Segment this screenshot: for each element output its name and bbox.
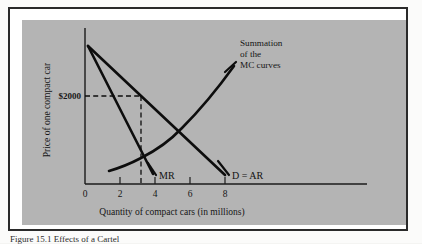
x-tick-label-2: 2 bbox=[118, 189, 123, 199]
mr-curve-label: MR bbox=[159, 170, 175, 181]
demand-curve bbox=[88, 46, 225, 175]
marginal-revenue-curve bbox=[88, 46, 153, 174]
y-tick-label-2000: $2000 bbox=[59, 91, 82, 101]
x-tick-label-6: 6 bbox=[188, 189, 193, 199]
x-tick-label-0: 0 bbox=[83, 189, 88, 199]
figure-caption: Figure 15.1 Effects of a Cartel bbox=[10, 234, 420, 244]
mc-callout-line-2: of the bbox=[240, 49, 261, 59]
y-axis-title: Price of one compact car bbox=[42, 62, 52, 157]
demand-curve-label: D = AR bbox=[232, 170, 264, 181]
plot-panel: 0 2 4 6 8 $2000 MR D bbox=[22, 20, 406, 225]
mc-callout-line-1: Summation bbox=[240, 38, 283, 48]
figure-frame: 0 2 4 6 8 $2000 MR D bbox=[8, 7, 408, 231]
x-tick-label-8: 8 bbox=[223, 189, 228, 199]
economics-chart: 0 2 4 6 8 $2000 MR D bbox=[22, 20, 406, 225]
mc-callout-line-3: MC curves bbox=[240, 60, 281, 70]
x-tick-label-4: 4 bbox=[153, 189, 158, 199]
x-axis-title: Quantity of compact cars (in millions) bbox=[99, 207, 244, 218]
